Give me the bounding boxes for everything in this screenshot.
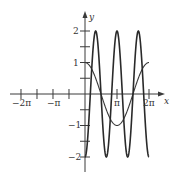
y-tick-label-2: 2 [73, 26, 79, 36]
y-axis-arrow-icon [83, 11, 88, 18]
y-axis-label: y [88, 12, 95, 22]
x-tick-label-neg-pi: −π [47, 98, 61, 108]
function-graph: y x −2π −π π 2π 2 1 −1 −2 [0, 0, 173, 184]
x-tick-label-pi: π [114, 98, 120, 108]
x-axis-label: x [164, 96, 169, 106]
x-tick-label-neg-2pi: −2π [12, 98, 31, 108]
x-tick-label-2pi: 2π [143, 98, 155, 108]
y-tick-label-neg1: −1 [68, 120, 81, 130]
y-tick-label-neg2: −2 [68, 152, 81, 162]
y-tick-label-1: 1 [73, 58, 79, 68]
